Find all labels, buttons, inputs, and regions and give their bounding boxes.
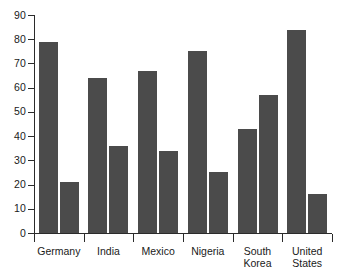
y-axis-tick-label: 70 [0,58,26,69]
y-axis-tick-label-text: 40 [2,131,26,142]
bar [209,172,228,233]
y-axis-tick-label: 90 [0,10,26,21]
x-axis-end-tick [332,234,333,242]
category-label: Mexico [133,245,183,257]
y-axis-tick [28,88,35,89]
bar [138,71,157,233]
x-axis-group-separator [282,234,283,242]
bar [109,146,128,233]
bar [238,129,257,233]
bar [188,51,207,233]
bar [39,42,58,233]
y-axis-tick [28,209,35,210]
y-axis-tick-label: 50 [0,106,26,117]
y-axis-tick-label-text: 30 [2,155,26,166]
category-label: Nigeria [183,245,233,257]
y-axis-tick-label: 80 [0,34,26,45]
bar [259,95,278,233]
y-axis-tick [28,160,35,161]
y-axis-tick-label-text: 70 [2,58,26,69]
x-axis-group-separator [84,234,85,242]
category-label: South Korea [233,245,283,269]
y-axis-tick [28,112,35,113]
y-axis-tick-label-text: 0 [2,228,26,239]
category-label: Germany [34,245,84,257]
y-axis-tick-label: 10 [0,203,26,214]
bar [159,151,178,233]
x-axis-group-separator [133,234,134,242]
bar [88,78,107,233]
bar-chart: 9080706050403020100 GermanyIndiaMexicoNi… [0,0,338,273]
y-axis-tick-label-text: 60 [2,82,26,93]
y-axis-tick-label: 30 [0,155,26,166]
x-axis-group-separator [233,234,234,242]
category-label: United States [282,245,332,269]
x-axis-group-separator [183,234,184,242]
y-axis-tick-label: 20 [0,179,26,190]
y-axis-tick-label-text: 10 [2,203,26,214]
bar [60,182,79,233]
y-axis-tick-label: 40 [0,131,26,142]
y-axis-tick-label: 0 [0,228,26,239]
y-axis-tick-label-text: 90 [2,10,26,21]
category-label: India [84,245,134,257]
y-axis-tick [28,185,35,186]
x-axis-end-tick [34,234,35,242]
y-axis-tick [28,136,35,137]
y-axis-tick-label-text: 50 [2,106,26,117]
y-axis-line [34,15,35,234]
y-axis-tick [28,63,35,64]
y-axis-tick-label-text: 20 [2,179,26,190]
y-axis-tick [28,39,35,40]
y-axis-tick-label: 60 [0,82,26,93]
y-axis-tick-label-text: 80 [2,34,26,45]
bar [287,30,306,234]
bar [308,194,327,233]
y-axis-tick [28,15,35,16]
